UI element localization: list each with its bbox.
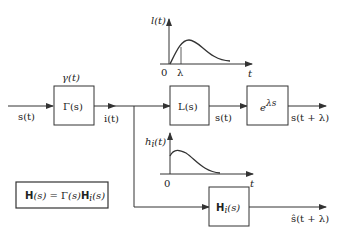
- svg-text:0: 0: [164, 178, 170, 189]
- intermediate-signal-label: i(t): [104, 113, 119, 124]
- svg-text:0: 0: [161, 67, 167, 78]
- svg-text:λ: λ: [177, 67, 184, 78]
- plot-hi: hi(t) 0 t: [145, 133, 255, 189]
- lower-output-label: ŝ(t + λ): [291, 213, 329, 224]
- input-signal-label: s(t): [18, 111, 35, 122]
- l-output-signal-label: s(t): [215, 112, 232, 123]
- svg-text:t: t: [248, 68, 253, 79]
- l-block-label: L(s): [178, 101, 198, 112]
- block-diagram: s(t) γ(t) Γ(s) i(t) L(s) s(t) eλs s(t + …: [0, 0, 345, 237]
- svg-text:hi(t): hi(t): [145, 136, 166, 149]
- gamma-block-label: Γ(s): [63, 101, 83, 112]
- upper-output-label: s(t + λ): [291, 112, 329, 123]
- svg-text:l(t): l(t): [151, 15, 166, 26]
- gamma-impulse-label: γ(t): [62, 72, 80, 83]
- plot-l: l(t) 0 λ t: [151, 15, 253, 79]
- svg-text:t: t: [250, 178, 255, 189]
